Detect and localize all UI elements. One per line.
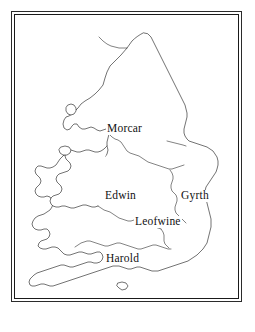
northern-border xyxy=(99,37,127,48)
anglesey xyxy=(59,146,71,155)
england-coastline xyxy=(29,33,218,286)
figure-caption xyxy=(14,320,246,332)
wales-coastline xyxy=(50,146,107,208)
map-label-morcar: Morcar xyxy=(106,123,143,135)
figure: Morcar Edwin Gyrth Leofwine Harold xyxy=(0,0,255,332)
map-label-harold: Harold xyxy=(105,253,140,265)
isle-of-wight xyxy=(117,282,128,290)
map-label-gyrth: Gyrth xyxy=(180,190,210,202)
isle-of-man xyxy=(66,104,76,115)
map-label-leofwine: Leofwine xyxy=(134,216,182,228)
map-area: Morcar Edwin Gyrth Leofwine Harold xyxy=(15,15,238,298)
map-label-edwin: Edwin xyxy=(104,190,137,202)
